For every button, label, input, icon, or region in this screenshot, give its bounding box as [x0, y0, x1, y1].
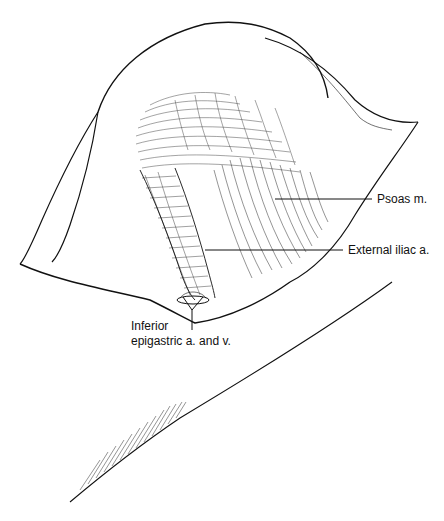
- leader-lines: [183, 199, 372, 330]
- label-external-iliac-artery: External iliac a.: [348, 243, 429, 257]
- anatomical-illustration: [0, 0, 444, 521]
- wound-edges: [20, 38, 418, 323]
- label-psoas-muscle: Psoas m.: [377, 192, 427, 206]
- label-inferior-epigastric-vessels: Inferior epigastric a. and v.: [131, 319, 231, 349]
- peritoneal-sac: [98, 22, 328, 172]
- psoas-muscle: [214, 158, 328, 278]
- label-inferior-epigastric-line2: epigastric a. and v.: [131, 334, 231, 349]
- external-iliac-artery: [140, 168, 215, 300]
- abdominal-wall-contour: [70, 282, 392, 502]
- label-inferior-epigastric-line1: Inferior: [131, 319, 231, 334]
